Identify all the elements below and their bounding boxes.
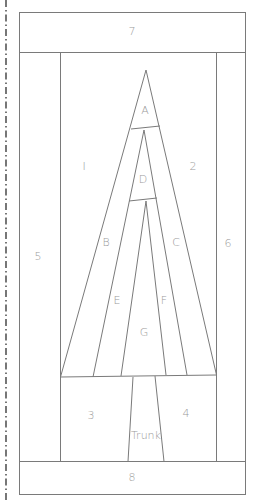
label-right-side: 6 <box>225 237 232 250</box>
label-right-background: 2 <box>190 160 197 173</box>
label-piece-a: A <box>141 104 149 117</box>
trunk-right-edge <box>155 376 164 462</box>
trunk-left-edge <box>128 377 133 462</box>
piece-c-edge <box>144 130 187 375</box>
tree-right-edge <box>146 70 217 375</box>
piece-f-edge <box>146 201 166 375</box>
piece-a-edge <box>131 126 160 129</box>
outer-frame <box>20 13 246 495</box>
tree-block-diagram: 7 8 5 6 I 2 3 4 Trunk A B C D E F G <box>0 0 261 501</box>
label-piece-e: E <box>114 294 121 307</box>
label-left-background: I <box>82 160 85 173</box>
label-left-side: 5 <box>35 250 42 263</box>
piece-d-edge <box>129 198 157 201</box>
label-trunk: Trunk <box>131 429 162 442</box>
label-piece-g: G <box>140 326 149 339</box>
piece-e-edge <box>121 201 146 376</box>
label-bottom-left: 3 <box>88 409 95 422</box>
label-piece-d: D <box>139 173 147 186</box>
label-bottom-border: 8 <box>129 471 136 484</box>
tree-base-line <box>61 375 217 377</box>
label-piece-c: C <box>172 236 180 249</box>
tree-left-edge <box>61 70 147 377</box>
label-bottom-right: 4 <box>183 407 190 420</box>
label-piece-f: F <box>161 294 167 307</box>
label-top-border: 7 <box>129 25 136 38</box>
label-piece-b: B <box>102 236 109 249</box>
